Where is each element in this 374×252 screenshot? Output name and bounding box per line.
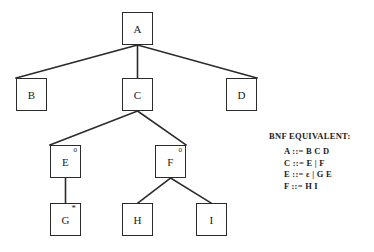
bnf-rule-a: A ::= B C D	[284, 146, 374, 156]
tree-node-e-superscript: 0	[74, 147, 78, 154]
edge-a-d	[138, 45, 258, 78]
tree-node-a[interactable]: A	[122, 12, 153, 45]
tree-node-f-label: F	[156, 156, 185, 167]
tree-node-b[interactable]: B	[16, 78, 47, 111]
edge-f-h	[138, 178, 171, 203]
bnf-equivalent-panel: BNF EQUIVALENT: A ::= B C D C ::= E | F …	[262, 131, 374, 192]
bnf-rule-c: C ::= E | F	[284, 158, 374, 168]
tree-node-h[interactable]: H	[122, 203, 153, 236]
tree-node-g-superscript: *	[72, 204, 77, 213]
tree-node-f-superscript: 0	[179, 147, 183, 154]
bnf-rule-e: E ::= ε | G E	[284, 169, 374, 179]
tree-node-g[interactable]: G *	[50, 203, 81, 236]
bnf-panel-title: BNF EQUIVALENT:	[269, 131, 374, 141]
tree-node-d-label: D	[227, 89, 256, 100]
bnf-rule-f: F ::= H I	[284, 181, 374, 191]
tree-node-f[interactable]: F 0	[155, 145, 186, 178]
tree-node-i-label: I	[197, 214, 226, 225]
edge-c-e	[50, 111, 138, 145]
tree-node-e[interactable]: E 0	[50, 145, 81, 178]
tree-node-b-label: B	[17, 89, 46, 100]
tree-node-d[interactable]: D	[226, 78, 257, 111]
tree-node-h-label: H	[123, 214, 152, 225]
tree-node-e-label: E	[51, 156, 80, 167]
tree-node-a-label: A	[123, 23, 152, 34]
edge-c-f	[138, 111, 187, 145]
tree-node-i[interactable]: I	[196, 203, 227, 236]
edge-f-i	[171, 178, 212, 203]
syntax-tree-diagram: A B C D E 0 F 0 G * H I BNF EQUIVALENT: …	[0, 0, 374, 252]
tree-node-c[interactable]: C	[122, 78, 153, 111]
edge-a-b	[16, 45, 138, 78]
tree-node-c-label: C	[123, 89, 152, 100]
tree-node-g-label: G	[51, 214, 80, 225]
